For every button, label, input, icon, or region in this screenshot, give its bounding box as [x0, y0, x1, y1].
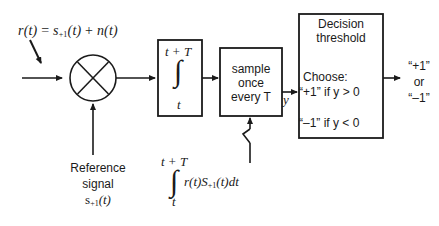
formula-differential: dt [229, 174, 239, 189]
output-line3: “–1” [399, 90, 439, 106]
output-line2: or [399, 74, 439, 90]
sample-box-label: sample once every T [224, 63, 278, 104]
reference-symbol-subscript: +1 [90, 199, 99, 208]
diagram-canvas: r(t) = s+1(t) + n(t) t + T ∫ t sample on… [0, 0, 439, 226]
sample-box-line3: every T [224, 91, 278, 105]
input-signal-expression: r(t) = s+1(t) + n(t) [18, 23, 118, 39]
formula-lower-limit: t [172, 195, 176, 210]
decision-rule-positive: “+1” if y > 0 [299, 86, 360, 100]
input-expr-equals: = [37, 23, 53, 38]
input-expr-signal-subscript: +1 [59, 30, 68, 39]
output-line1: “+1” [399, 58, 439, 74]
sample-box-line1: sample [224, 63, 278, 77]
formula-integral-sign-icon: ∫ [170, 166, 178, 196]
reference-symbol-arg: (t) [99, 192, 111, 207]
output-label: “+1” or “–1” [399, 58, 439, 107]
sampler-clock-line [243, 118, 250, 163]
input-expr-signal-arg: (t) [68, 23, 82, 38]
input-expr-noise: n(t) [97, 23, 118, 38]
formula-integrand-r: r(t) [184, 174, 201, 189]
integrator-lower-limit: t [177, 97, 181, 113]
decision-box-title: Decision threshold [303, 18, 379, 46]
reference-signal-caption: Reference signal s+1(t) [56, 161, 140, 210]
formula-integrand-S-arg: (t) [216, 174, 228, 189]
decision-title-line2: threshold [303, 32, 379, 46]
reference-symbol: s+1(t) [56, 192, 140, 209]
decision-rule-negative: “–1” if y < 0 [299, 117, 359, 131]
input-expr-lhs: r(t) [18, 23, 37, 38]
formula-integrand: r(t)S+1(t)dt [184, 175, 239, 190]
multiplier-symbol [70, 55, 116, 101]
decision-title-line1: Decision [303, 18, 379, 32]
reference-line1: Reference [56, 161, 140, 177]
input-expr-plus: + [81, 23, 97, 38]
reference-line2: signal [56, 177, 140, 193]
sample-box-line2: once [224, 77, 278, 91]
sampler-output-label: y [283, 93, 289, 108]
input-pointer-arrow [30, 40, 41, 63]
decision-choose-label: Choose: [303, 71, 348, 85]
integral-sign-icon: ∫ [174, 56, 182, 86]
